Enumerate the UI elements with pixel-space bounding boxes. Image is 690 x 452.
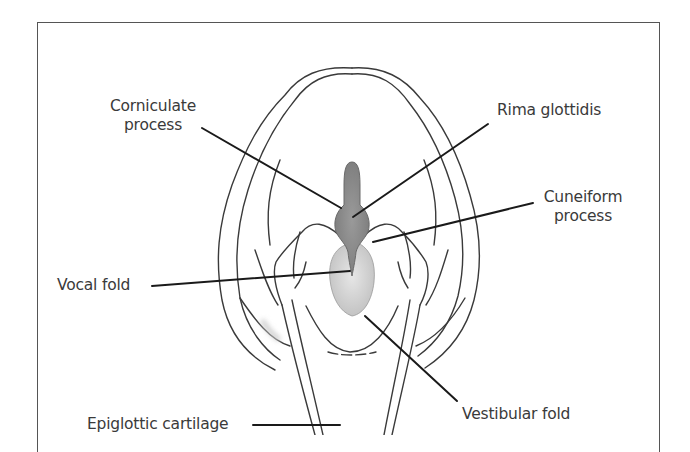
label-vocal-fold: Vocal fold (57, 276, 130, 295)
leader-cuneiform (373, 203, 533, 242)
label-epiglottic-cartilage: Epiglottic cartilage (87, 415, 228, 434)
leader-corniculate (202, 128, 341, 208)
epiglottis-contour (240, 298, 465, 435)
label-cuneiform-process: Cuneiform process (538, 188, 628, 226)
leader-vocal-fold (152, 271, 350, 286)
label-vestibular-fold: Vestibular fold (462, 405, 570, 424)
label-corniculate-process: Corniculate process (98, 97, 208, 135)
leader-rima (353, 124, 488, 217)
label-rima-glottidis: Rima glottidis (497, 101, 601, 120)
